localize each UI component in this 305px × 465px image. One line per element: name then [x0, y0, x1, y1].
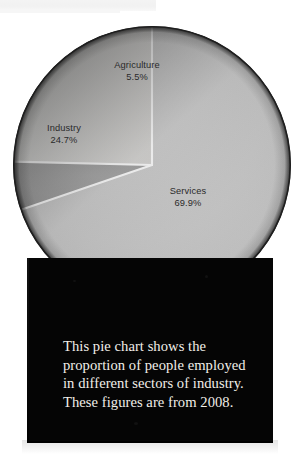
caption-text: This pie chart shows the proportion of p… — [63, 337, 268, 411]
pie-label-industry-name: Industry — [47, 123, 81, 133]
pie-label-agriculture: Agriculture 5.5% — [101, 60, 173, 83]
pie-label-services: Services 69.9% — [152, 186, 224, 209]
caption-panel: This pie chart shows the proportion of p… — [27, 258, 273, 443]
caption-line-2: proportion of people employed — [63, 356, 268, 375]
pie-label-industry: Industry 24.7% — [28, 123, 100, 146]
panel-speck — [134, 422, 138, 425]
page-edge-shadow — [22, 440, 278, 454]
caption-line-4: These figures are from 2008. — [63, 393, 268, 412]
pie-label-services-name: Services — [170, 186, 206, 196]
pie-label-agriculture-name: Agriculture — [114, 60, 160, 70]
caption-line-1: This pie chart shows the — [63, 337, 268, 356]
page-root: Agriculture 5.5% Industry 24.7% Services… — [0, 0, 305, 465]
pie-label-agriculture-value: 5.5% — [101, 72, 173, 84]
panel-left-edge — [27, 258, 29, 443]
pie-label-services-value: 69.9% — [152, 198, 224, 210]
panel-speck — [73, 280, 76, 282]
caption-line-3: in different sectors of industry. — [63, 374, 268, 393]
panel-speck — [205, 275, 208, 278]
pie-label-industry-value: 24.7% — [28, 135, 100, 147]
